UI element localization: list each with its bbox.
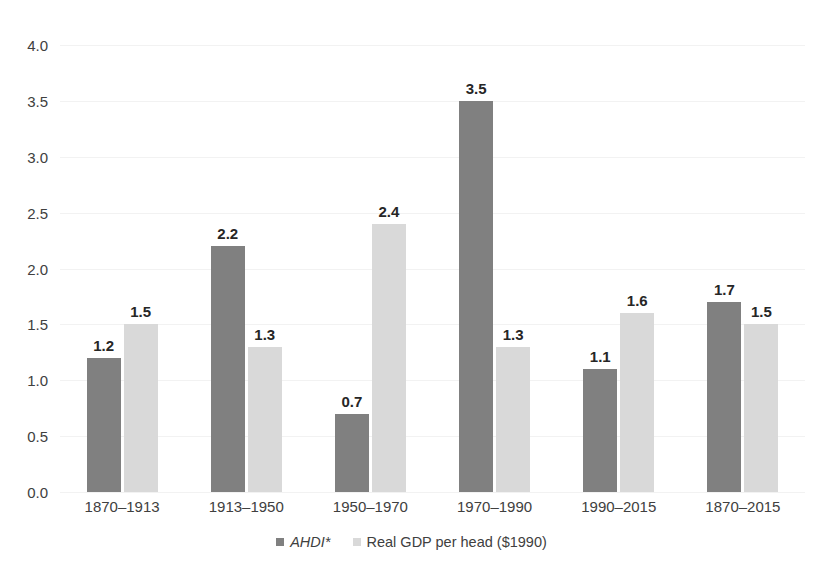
bar-group: 2.21.3 bbox=[211, 45, 282, 492]
legend-label: Real GDP per head ($1990) bbox=[367, 534, 547, 550]
chart-legend: AHDI*Real GDP per head ($1990) bbox=[0, 534, 823, 550]
x-axis-category-label: 1950–1970 bbox=[300, 498, 440, 515]
bar[interactable] bbox=[496, 347, 530, 492]
bar-slot: 1.3 bbox=[248, 45, 282, 492]
bar-slot: 3.5 bbox=[459, 45, 493, 492]
bar[interactable] bbox=[335, 414, 369, 492]
y-axis: 4.03.53.02.52.01.51.00.50.0 bbox=[0, 45, 48, 492]
bar-value-label: 2.4 bbox=[362, 203, 416, 220]
y-axis-tick-label: 1.0 bbox=[0, 372, 48, 389]
bar-slot: 1.5 bbox=[124, 45, 158, 492]
bar-group: 3.51.3 bbox=[459, 45, 530, 492]
y-axis-tick-label: 0.0 bbox=[0, 484, 48, 501]
bar[interactable] bbox=[211, 246, 245, 492]
bar-value-label: 0.7 bbox=[325, 393, 379, 410]
legend-swatch-icon bbox=[276, 538, 284, 546]
bar[interactable] bbox=[372, 224, 406, 492]
bar-value-label: 1.5 bbox=[114, 303, 168, 320]
bar-slot: 1.1 bbox=[583, 45, 617, 492]
bar-slot: 1.3 bbox=[496, 45, 530, 492]
bar-group: 1.11.6 bbox=[583, 45, 654, 492]
legend-swatch-icon bbox=[353, 538, 361, 546]
bar[interactable] bbox=[459, 101, 493, 492]
bar-value-label: 1.1 bbox=[573, 348, 627, 365]
y-axis-tick-label: 2.0 bbox=[0, 260, 48, 277]
bar[interactable] bbox=[124, 324, 158, 492]
bar-slot: 1.2 bbox=[87, 45, 121, 492]
bar[interactable] bbox=[248, 347, 282, 492]
bar-slot: 2.4 bbox=[372, 45, 406, 492]
bar-group: 1.71.5 bbox=[707, 45, 778, 492]
bar-slot: 0.7 bbox=[335, 45, 369, 492]
bar-value-label: 1.5 bbox=[734, 303, 788, 320]
bar-value-label: 2.2 bbox=[201, 225, 255, 242]
bar[interactable] bbox=[744, 324, 778, 492]
bar-value-label: 1.7 bbox=[697, 281, 751, 298]
bar[interactable] bbox=[707, 302, 741, 492]
bar-value-label: 3.5 bbox=[449, 80, 503, 97]
bar-value-label: 1.2 bbox=[77, 337, 131, 354]
x-axis-category-label: 1913–1950 bbox=[176, 498, 316, 515]
bar-slot: 1.6 bbox=[620, 45, 654, 492]
x-axis-category-label: 1870–2015 bbox=[673, 498, 813, 515]
bar[interactable] bbox=[620, 313, 654, 492]
x-axis-category-label: 1870–1913 bbox=[52, 498, 192, 515]
bar-chart: 4.03.53.02.52.01.51.00.50.0 1.21.52.21.3… bbox=[0, 0, 823, 572]
legend-item[interactable]: AHDI* bbox=[276, 534, 330, 550]
y-axis-tick-label: 4.0 bbox=[0, 37, 48, 54]
bar[interactable] bbox=[87, 358, 121, 492]
bar-value-label: 1.3 bbox=[486, 326, 540, 343]
legend-item[interactable]: Real GDP per head ($1990) bbox=[353, 534, 547, 550]
bars-layer: 1.21.52.21.30.72.43.51.31.11.61.71.5 bbox=[60, 45, 805, 492]
y-axis-tick-label: 3.0 bbox=[0, 148, 48, 165]
bar-slot: 1.5 bbox=[744, 45, 778, 492]
bar[interactable] bbox=[583, 369, 617, 492]
bar-group: 1.21.5 bbox=[87, 45, 158, 492]
y-axis-tick-label: 0.5 bbox=[0, 428, 48, 445]
x-axis-category-label: 1970–1990 bbox=[425, 498, 565, 515]
bar-value-label: 1.3 bbox=[238, 326, 292, 343]
bar-slot: 1.7 bbox=[707, 45, 741, 492]
gridline bbox=[60, 492, 805, 493]
bar-group: 0.72.4 bbox=[335, 45, 406, 492]
y-axis-tick-label: 2.5 bbox=[0, 204, 48, 221]
legend-label: AHDI* bbox=[290, 534, 330, 550]
x-axis-category-label: 1990–2015 bbox=[549, 498, 689, 515]
y-axis-tick-label: 1.5 bbox=[0, 316, 48, 333]
bar-slot: 2.2 bbox=[211, 45, 245, 492]
x-axis: 1870–19131913–19501950–19701970–19901990… bbox=[60, 498, 805, 524]
y-axis-tick-label: 3.5 bbox=[0, 92, 48, 109]
bar-value-label: 1.6 bbox=[610, 292, 664, 309]
